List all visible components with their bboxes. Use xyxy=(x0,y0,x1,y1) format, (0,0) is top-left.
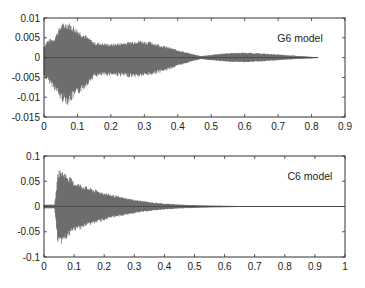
x-tick-label: 0.3 xyxy=(137,121,151,132)
x-tick-label: 0.3 xyxy=(127,261,141,272)
x-tick-label: 0.8 xyxy=(278,261,292,272)
figure: 00.10.20.30.40.50.60.70.80.90.010.0050-0… xyxy=(0,0,365,288)
plot-annotation: C6 model xyxy=(288,170,333,182)
y-tick-label: -0.05 xyxy=(17,226,40,237)
x-tick-label: 0.5 xyxy=(204,121,218,132)
x-tick-label: 0 xyxy=(41,121,47,132)
y-tick-label: -0.01 xyxy=(17,92,40,103)
plot-annotation: G6 model xyxy=(277,32,323,44)
x-tick-label: 0.9 xyxy=(308,261,322,272)
x-tick-label: 0 xyxy=(41,261,47,272)
y-tick-label: 0.005 xyxy=(15,32,40,43)
y-tick-label: -0.005 xyxy=(12,72,41,83)
x-tick-label: 0.2 xyxy=(104,121,118,132)
y-tick-label: 0.1 xyxy=(26,151,40,162)
x-tick-label: 0.8 xyxy=(305,121,319,132)
y-tick-label: 0.01 xyxy=(21,13,41,24)
y-tick-label: -0.015 xyxy=(12,112,41,123)
x-tick-label: 1 xyxy=(342,261,348,272)
y-tick-label: -0.1 xyxy=(23,252,41,263)
x-tick-label: 0.1 xyxy=(70,121,84,132)
y-tick-label: 0 xyxy=(34,52,40,63)
y-tick-label: 0 xyxy=(34,201,40,212)
plot-c6-model: 00.10.20.30.40.50.60.70.80.910.10.050-0.… xyxy=(17,151,348,273)
x-tick-label: 0.7 xyxy=(271,121,285,132)
plot-g6-model: 00.10.20.30.40.50.60.70.80.90.010.0050-0… xyxy=(12,13,353,133)
y-tick-label: 0.05 xyxy=(21,176,41,187)
x-tick-label: 0.1 xyxy=(67,261,81,272)
x-tick-label: 0.7 xyxy=(248,261,262,272)
x-tick-label: 0.5 xyxy=(188,261,202,272)
x-tick-label: 0.9 xyxy=(338,121,352,132)
x-tick-label: 0.4 xyxy=(157,261,171,272)
x-tick-label: 0.6 xyxy=(238,121,252,132)
x-tick-label: 0.4 xyxy=(171,121,185,132)
x-tick-label: 0.6 xyxy=(218,261,232,272)
x-tick-label: 0.2 xyxy=(97,261,111,272)
